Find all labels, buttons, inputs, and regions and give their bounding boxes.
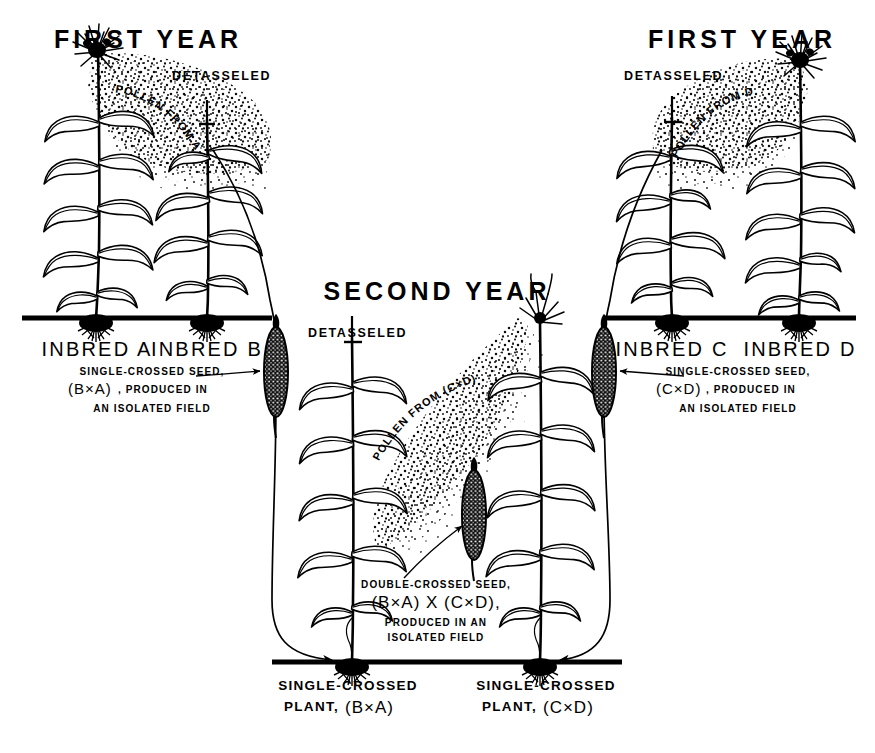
caption-left-line1: SINGLE-CROSSED SEED, bbox=[80, 366, 225, 377]
label-plant-cxd-pre: PLANT, bbox=[482, 699, 537, 714]
label-plant-bxa-paren: (B×A) bbox=[345, 698, 394, 717]
caption-right-line3: AN ISOLATED FIELD bbox=[679, 403, 796, 414]
label-plant-cxd-paren: (C×D) bbox=[543, 698, 594, 717]
label-detasseled-center: DETASSELED bbox=[308, 326, 407, 340]
caption-left-line3: AN ISOLATED FIELD bbox=[93, 403, 210, 414]
label-inbred-c: INBRED C bbox=[615, 338, 728, 360]
caption-center-line2: (B×A) X (C×D), bbox=[371, 593, 500, 612]
caption-right-line1: SINGLE-CROSSED SEED, bbox=[666, 366, 811, 377]
label-detasseled-left: DETASSELED bbox=[172, 69, 271, 83]
caption-center-line3: PRODUCED IN AN bbox=[385, 617, 487, 628]
diagram-canvas: FIRST YEAR DETASSELED POLLEN FROM A INBR… bbox=[0, 0, 875, 753]
label-inbred-a: INBRED A bbox=[42, 338, 153, 360]
caption-left-line2-rest: , PRODUCED IN bbox=[118, 384, 208, 395]
caption-left-paren: (B×A) bbox=[68, 380, 112, 397]
label-plant-bxa-pre: PLANT, bbox=[284, 699, 339, 714]
label-plant-bxa-line1: SINGLE-CROSSED bbox=[278, 678, 418, 693]
hybrid-corn-diagram-svg: FIRST YEAR DETASSELED POLLEN FROM A INBR… bbox=[0, 0, 875, 753]
caption-right-line2-rest: , PRODUCED IN bbox=[706, 384, 796, 395]
label-plant-cxd-line1: SINGLE-CROSSED bbox=[476, 678, 616, 693]
caption-center-line4: ISOLATED FIELD bbox=[388, 632, 485, 643]
title-first-year-left: FIRST YEAR bbox=[54, 25, 242, 53]
label-inbred-b: INBRED B bbox=[151, 338, 263, 360]
title-second-year: SECOND YEAR bbox=[324, 277, 551, 305]
caption-right-paren: (C×D) bbox=[656, 380, 701, 397]
title-first-year-right: FIRST YEAR bbox=[648, 25, 836, 53]
caption-center-line1: DOUBLE-CROSSED SEED, bbox=[361, 579, 511, 590]
label-detasseled-right: DETASSELED bbox=[624, 69, 723, 83]
label-inbred-d: INBRED D bbox=[743, 338, 856, 360]
